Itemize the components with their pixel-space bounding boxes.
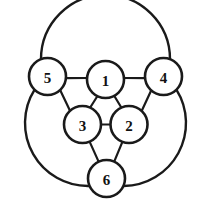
node-2-label: 2 (125, 118, 133, 134)
node-5-label: 5 (44, 70, 52, 86)
edge-4-2 (141, 90, 151, 112)
node-3[interactable]: 3 (64, 106, 101, 143)
node-3-label: 3 (79, 118, 87, 134)
edge-1-2 (115, 96, 122, 107)
node-group: 1 2 3 4 5 6 (29, 58, 182, 197)
edge-3-6 (90, 142, 99, 162)
node-2[interactable]: 2 (111, 106, 148, 143)
node-1[interactable]: 1 (87, 61, 124, 98)
edge-5-3 (60, 90, 71, 112)
edge-2-6 (114, 142, 122, 162)
node-6[interactable]: 6 (88, 160, 125, 197)
node-6-label: 6 (103, 172, 111, 188)
diagram-canvas: 1 2 3 4 5 6 (0, 0, 204, 207)
node-4-label: 4 (160, 70, 168, 86)
node-4[interactable]: 4 (145, 58, 182, 95)
edge-1-3 (90, 96, 97, 108)
arc-edge-5-4 (41, 0, 170, 59)
node-5[interactable]: 5 (29, 58, 66, 95)
graph-svg: 1 2 3 4 5 6 (0, 0, 204, 207)
node-1-label: 1 (102, 73, 110, 89)
